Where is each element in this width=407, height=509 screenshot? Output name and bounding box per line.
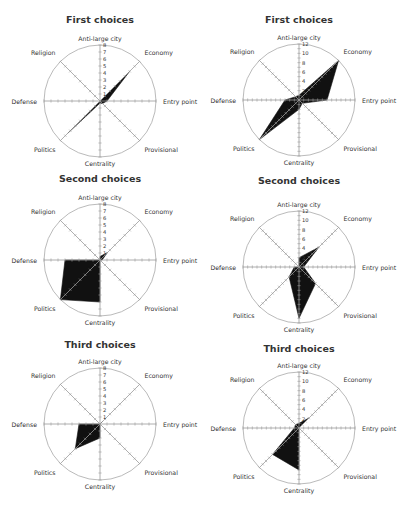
axis-label: Religion [31, 372, 56, 380]
tick-label: 8 [302, 227, 305, 233]
axis-label: Economy [344, 215, 373, 223]
axis-label: Provisional [145, 305, 179, 312]
axis-label: Religion [230, 376, 255, 384]
axis-label: Provisional [145, 146, 179, 153]
axis-label: Anti-large city [277, 34, 321, 42]
axis-label: Religion [31, 208, 56, 216]
radar-chart-grid: First choices First choices Second choic… [0, 0, 407, 509]
tick-label: 3 [103, 236, 106, 242]
tick-label: 12 [302, 208, 309, 214]
radar-chart-5: Anti-large cityEconomyEntry pointProvisi… [210, 362, 396, 495]
radar-chart-3: Anti-large cityEconomyEntry pointProvisi… [210, 201, 396, 334]
tick-label: 2 [302, 255, 305, 261]
axis-label: Centrality [85, 483, 116, 491]
tick-label: 10 [302, 50, 309, 56]
tick-label: 8 [302, 388, 305, 394]
tick-label: 4 [302, 406, 306, 412]
tick-label: 6 [103, 56, 106, 62]
tick-label: 2 [103, 243, 106, 249]
tick-label: 5 [103, 222, 106, 228]
axis-label: Politics [34, 469, 56, 476]
radar-chart-4: Anti-large cityEconomyEntry pointProvisi… [11, 358, 197, 491]
tick-label: 12 [302, 369, 309, 375]
axis-label: Entry point [362, 97, 397, 105]
axis-label: Entry point [163, 421, 198, 429]
axis-label: Anti-large city [78, 358, 122, 366]
axis-label: Defense [11, 257, 37, 264]
axis-label: Politics [233, 145, 255, 152]
tick-label: 2 [103, 407, 106, 413]
axis-label: Politics [233, 312, 255, 319]
tick-label: 4 [103, 393, 107, 399]
tick-label: 7 [103, 208, 106, 214]
axis-label: Entry point [163, 257, 198, 265]
axis-label: Economy [344, 48, 373, 56]
tick-label: 1 [103, 91, 106, 97]
tick-label: 6 [302, 397, 305, 403]
tick-label: 8 [302, 60, 305, 66]
tick-label: 7 [103, 372, 106, 378]
tick-label: 2 [103, 84, 106, 90]
axis-label: Religion [230, 215, 255, 223]
tick-label: 6 [302, 69, 305, 75]
axis-label: Defense [11, 98, 37, 105]
tick-label: 4 [103, 229, 107, 235]
axis-label: Centrality [284, 487, 315, 495]
tick-label: 8 [103, 201, 106, 207]
axis-label: Centrality [85, 160, 116, 168]
tick-label: 4 [302, 245, 306, 251]
axis-label: Religion [31, 49, 56, 57]
tick-label: 6 [103, 215, 106, 221]
axis-label: Defense [210, 97, 236, 104]
tick-label: 1 [103, 250, 106, 256]
axis-label: Anti-large city [277, 362, 321, 370]
tick-label: 7 [103, 49, 106, 55]
axis-label: Centrality [284, 326, 315, 334]
data-polygon [273, 418, 309, 470]
tick-label: 3 [103, 77, 106, 83]
axis-label: Economy [145, 208, 174, 216]
axis-label: Defense [210, 264, 236, 271]
axis-label: Provisional [344, 473, 378, 480]
axis-label: Defense [11, 421, 37, 428]
axis-label: Anti-large city [78, 194, 122, 202]
tick-label: 6 [302, 236, 305, 242]
tick-label: 3 [103, 400, 106, 406]
axis-label: Defense [210, 425, 236, 432]
axis-label: Politics [34, 305, 56, 312]
tick-label: 8 [103, 365, 106, 371]
tick-label: 10 [302, 378, 309, 384]
axis-label: Economy [344, 376, 373, 384]
tick-label: 4 [302, 78, 306, 84]
tick-label: 8 [103, 42, 106, 48]
tick-label: 5 [103, 386, 106, 392]
tick-label: 5 [103, 63, 106, 69]
axis-label: Politics [233, 473, 255, 480]
radar-chart-1: Anti-large cityEconomyEntry pointProvisi… [210, 34, 396, 167]
radar-chart-0: Anti-large cityEconomyEntry pointProvisi… [11, 35, 197, 168]
axis-label: Provisional [344, 312, 378, 319]
tick-label: 6 [103, 379, 106, 385]
axis-label: Religion [230, 48, 255, 56]
axis-label: Anti-large city [78, 35, 122, 43]
axis-label: Entry point [163, 98, 198, 106]
axis-label: Politics [34, 146, 56, 153]
axis-label: Entry point [362, 264, 397, 272]
tick-label: 1 [103, 414, 106, 420]
axis-label: Centrality [85, 319, 116, 327]
radar-chart-2: Anti-large cityEconomyEntry pointProvisi… [11, 194, 197, 327]
axis-label: Economy [145, 49, 174, 57]
axis-label: Economy [145, 372, 174, 380]
tick-label: 12 [302, 41, 309, 47]
tick-label: 2 [302, 416, 305, 422]
axis-label: Provisional [344, 145, 378, 152]
axis-label: Anti-large city [277, 201, 321, 209]
tick-label: 4 [103, 70, 107, 76]
tick-label: 10 [302, 217, 309, 223]
axis-label: Entry point [362, 425, 397, 433]
axis-label: Provisional [145, 469, 179, 476]
tick-label: 2 [302, 88, 305, 94]
axis-label: Centrality [284, 159, 315, 167]
radar-plots-layer: Anti-large cityEconomyEntry pointProvisi… [0, 0, 407, 509]
